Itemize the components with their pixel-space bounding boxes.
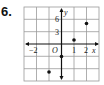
point	[47, 70, 51, 74]
point	[60, 55, 64, 59]
y-tick-3: 3	[55, 28, 59, 37]
x-tick-neg2: −2	[29, 46, 38, 55]
origin-label: O	[52, 46, 58, 55]
y-tick-6: 6	[55, 15, 59, 24]
point	[72, 38, 76, 42]
coordinate-plane: y 6 3 −2 O 1 2 x	[0, 0, 104, 85]
x-arrow-right-icon	[95, 42, 99, 46]
point	[85, 22, 89, 26]
x-tick-2: 2	[84, 46, 88, 55]
x-axis-label: x	[91, 46, 96, 55]
y-arrow-up-icon	[60, 8, 64, 12]
y-axis-label: y	[63, 8, 68, 17]
y-arrow-down-icon	[60, 76, 64, 80]
x-tick-1: 1	[72, 46, 76, 55]
